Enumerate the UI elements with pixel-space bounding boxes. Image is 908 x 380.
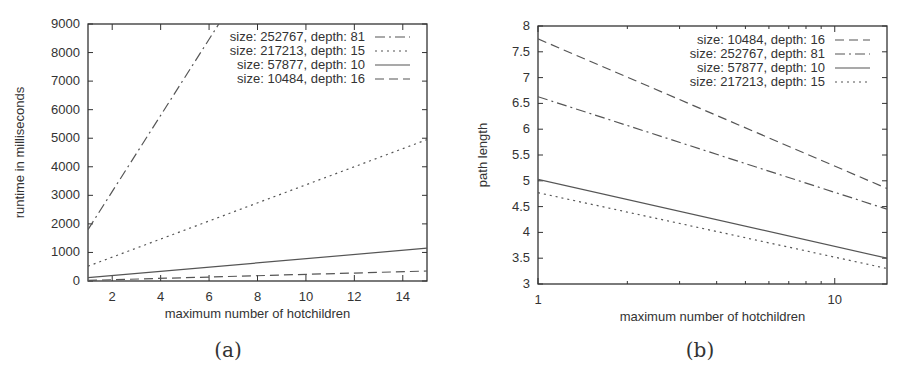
x-tick-label: 10	[299, 289, 313, 304]
y-tick-label: 7	[523, 70, 530, 85]
legend-label: size: 252767, depth: 81	[230, 29, 365, 44]
y-tick-label: 9000	[51, 16, 80, 31]
chart-b: 33.544.555.566.577.58110maximum number o…	[475, 18, 887, 362]
series-line	[538, 193, 887, 269]
y-tick-label: 7.5	[512, 44, 530, 59]
y-tick-label: 8000	[51, 45, 80, 60]
x-axis-label: maximum number of hotchildren	[620, 309, 806, 324]
y-tick-label: 5000	[51, 130, 80, 145]
y-tick-label: 1000	[51, 244, 80, 259]
series-line	[88, 140, 427, 267]
y-tick-label: 4	[523, 224, 530, 239]
series-line	[88, 24, 219, 230]
y-tick-label: 7000	[51, 73, 80, 88]
y-tick-label: 4000	[51, 159, 80, 174]
y-tick-label: 6	[523, 121, 530, 136]
series-line	[88, 248, 427, 277]
y-tick-label: 3.5	[512, 250, 530, 265]
y-tick-label: 8	[523, 18, 530, 33]
legend-label: size: 57877, depth: 10	[697, 60, 825, 75]
y-tick-label: 0	[73, 273, 80, 288]
y-axis-label: path length	[475, 123, 490, 187]
y-tick-label: 6.5	[512, 95, 530, 110]
x-tick-label: 6	[205, 289, 212, 304]
y-tick-label: 3	[523, 276, 530, 291]
y-tick-label: 3000	[51, 187, 80, 202]
series-line	[538, 179, 887, 258]
legend-label: size: 217213, depth: 15	[230, 43, 365, 58]
chart-a: 0100020003000400050006000700080009000246…	[12, 16, 427, 362]
x-tick-label: 2	[109, 289, 116, 304]
legend-label: size: 10484, depth: 16	[237, 71, 365, 86]
x-tick-label: 1	[534, 292, 541, 307]
figure: 0100020003000400050006000700080009000246…	[0, 0, 908, 380]
y-tick-label: 6000	[51, 102, 80, 117]
x-axis-label: maximum number of hotchildren	[165, 306, 351, 321]
figure-caption: (a)	[214, 338, 242, 362]
legend-label: size: 252767, depth: 81	[690, 46, 825, 61]
legend-label: size: 217213, depth: 15	[690, 74, 825, 89]
x-tick-label: 8	[254, 289, 261, 304]
y-axis-label: runtime in milliseconds	[12, 86, 27, 218]
y-tick-label: 2000	[51, 216, 80, 231]
x-tick-label: 12	[347, 289, 361, 304]
x-tick-label: 4	[157, 289, 164, 304]
legend-label: size: 10484, depth: 16	[697, 32, 825, 47]
y-tick-label: 5.5	[512, 147, 530, 162]
x-tick-label: 14	[396, 289, 410, 304]
legend-label: size: 57877, depth: 10	[237, 57, 365, 72]
x-tick-label: 10	[828, 292, 842, 307]
figure-caption: (b)	[686, 338, 714, 362]
y-tick-label: 4.5	[512, 199, 530, 214]
y-tick-label: 5	[523, 173, 530, 188]
